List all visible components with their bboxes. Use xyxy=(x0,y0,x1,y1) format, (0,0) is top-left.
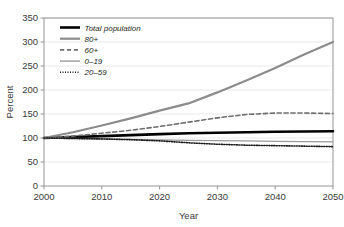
y-tick-label-100: 100 xyxy=(22,132,38,143)
legend: Total population80+60+0–1920–59 xyxy=(60,24,141,78)
x-tick-label-2010: 2010 xyxy=(91,191,112,202)
y-tick-label-50: 50 xyxy=(27,156,38,167)
chart-canvas: 0501001502002503003502000201020202030204… xyxy=(0,0,344,227)
series-line-4 xyxy=(44,138,333,147)
y-tick-label-350: 350 xyxy=(22,12,38,23)
y-tick-label-300: 300 xyxy=(22,36,38,47)
x-tick-label-2000: 2000 xyxy=(33,191,54,202)
legend-label-1: 80+ xyxy=(85,35,99,44)
x-axis-title: Year xyxy=(179,210,198,221)
y-axis-title: Percent xyxy=(4,85,15,118)
x-tick-label-2030: 2030 xyxy=(207,191,228,202)
population-projection-chart: 0501001502002503003502000201020202030204… xyxy=(0,0,344,227)
y-axis: 050100150200250300350 xyxy=(22,12,44,191)
y-tick-label-150: 150 xyxy=(22,108,38,119)
x-tick-label-2040: 2040 xyxy=(265,191,286,202)
x-tick-label-2020: 2020 xyxy=(149,191,170,202)
x-axis: 200020102020203020402050 xyxy=(33,186,343,202)
legend-label-3: 0–19 xyxy=(85,57,103,66)
y-tick-label-0: 0 xyxy=(33,180,38,191)
legend-label-0: Total population xyxy=(85,24,142,33)
y-tick-label-250: 250 xyxy=(22,60,38,71)
legend-label-4: 20–59 xyxy=(84,68,108,77)
y-tick-label-200: 200 xyxy=(22,84,38,95)
legend-label-2: 60+ xyxy=(85,46,99,55)
x-tick-label-2050: 2050 xyxy=(322,191,343,202)
